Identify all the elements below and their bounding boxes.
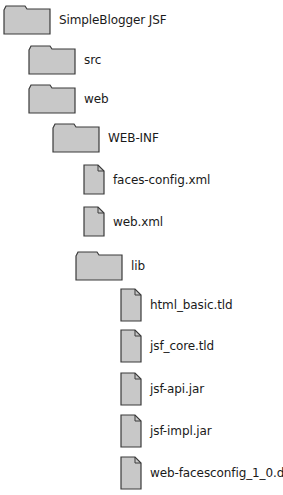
file-label: web.xml bbox=[113, 215, 163, 229]
folder-icon bbox=[75, 251, 123, 281]
file-faces-config-xml[interactable]: faces-config.xml bbox=[83, 164, 210, 195]
folder-label: web bbox=[84, 92, 109, 106]
folder-web-inf[interactable]: WEB-INF bbox=[52, 123, 159, 153]
folder-web[interactable]: web bbox=[28, 84, 109, 114]
folder-label: WEB-INF bbox=[108, 131, 159, 145]
file-web-facesconfig-dtd[interactable]: web-facesconfig_1_0.dtd bbox=[120, 456, 283, 490]
file-icon bbox=[120, 456, 142, 490]
file-icon bbox=[120, 288, 142, 322]
folder-label: SimpleBlogger JSF bbox=[59, 13, 167, 27]
folder-icon bbox=[28, 84, 76, 114]
file-jsf-api-jar[interactable]: jsf-api.jar bbox=[120, 372, 204, 406]
file-label: jsf-api.jar bbox=[150, 382, 204, 396]
file-label: jsf_core.tld bbox=[150, 339, 214, 353]
file-label: web-facesconfig_1_0.dtd bbox=[150, 466, 283, 480]
file-jsf-core-tld[interactable]: jsf_core.tld bbox=[120, 329, 214, 363]
folder-icon bbox=[3, 5, 51, 35]
file-label: html_basic.tld bbox=[150, 298, 233, 312]
file-html-basic-tld[interactable]: html_basic.tld bbox=[120, 288, 233, 322]
file-jsf-impl-jar[interactable]: jsf-impl.jar bbox=[120, 414, 212, 448]
file-icon bbox=[120, 414, 142, 448]
file-label: jsf-impl.jar bbox=[150, 424, 212, 438]
file-icon bbox=[120, 329, 142, 363]
file-icon bbox=[83, 164, 105, 195]
file-icon bbox=[83, 206, 105, 237]
folder-simpleblogger-jsf[interactable]: SimpleBlogger JSF bbox=[3, 5, 167, 35]
folder-label: lib bbox=[131, 259, 145, 273]
file-web-xml[interactable]: web.xml bbox=[83, 206, 163, 237]
folder-lib[interactable]: lib bbox=[75, 251, 145, 281]
file-label: faces-config.xml bbox=[113, 173, 210, 187]
folder-src[interactable]: src bbox=[28, 45, 101, 75]
folder-icon bbox=[28, 45, 76, 75]
folder-label: src bbox=[84, 53, 101, 67]
file-icon bbox=[120, 372, 142, 406]
folder-icon bbox=[52, 123, 100, 153]
